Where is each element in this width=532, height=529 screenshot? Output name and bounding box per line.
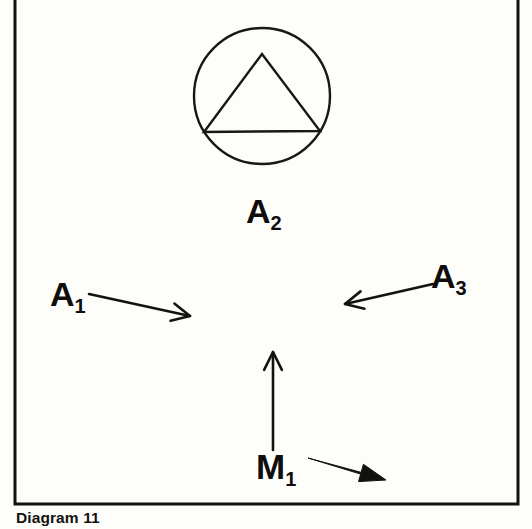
arrow-filled-dart-m1 (308, 458, 386, 482)
label-a3: A3 (431, 259, 467, 293)
triangle-outline (204, 54, 320, 132)
arrow-left-a3 (345, 284, 433, 309)
diagram-page: A2 A1 A3 M1 Diagram 11 (0, 0, 532, 529)
label-a2-base: A (246, 192, 271, 230)
label-a1-base: A (50, 275, 75, 313)
label-a2: A2 (246, 194, 282, 228)
circle-outline (194, 28, 330, 164)
label-m1: M1 (256, 449, 296, 484)
diagram-border-box (15, 0, 518, 504)
circle-triangle-symbol (194, 28, 330, 164)
arrow-up-m1 (264, 352, 282, 450)
label-m1-base: M (256, 447, 285, 486)
label-a1: A1 (50, 277, 86, 311)
label-a3-base: A (431, 257, 456, 295)
arrow-right-a1 (89, 294, 190, 321)
arrow-filled-dart-m1-body (308, 458, 386, 482)
label-a1-subscript: 1 (75, 295, 86, 317)
label-a3-subscript: 3 (456, 277, 467, 299)
figure-caption: Diagram 11 (16, 509, 100, 527)
label-m1-subscript: 1 (285, 468, 296, 490)
label-a2-subscript: 2 (271, 212, 282, 234)
